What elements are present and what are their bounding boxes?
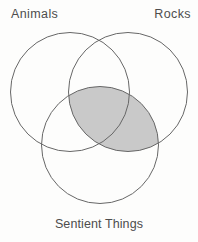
- animals-label: Animals: [11, 8, 58, 21]
- sentient-things-label: Sentient Things: [0, 218, 198, 231]
- venn-diagram-canvas: [0, 0, 198, 242]
- venn-diagram-figure: Animals Rocks Sentient Things: [0, 0, 198, 242]
- rocks-label: Rocks: [154, 8, 191, 21]
